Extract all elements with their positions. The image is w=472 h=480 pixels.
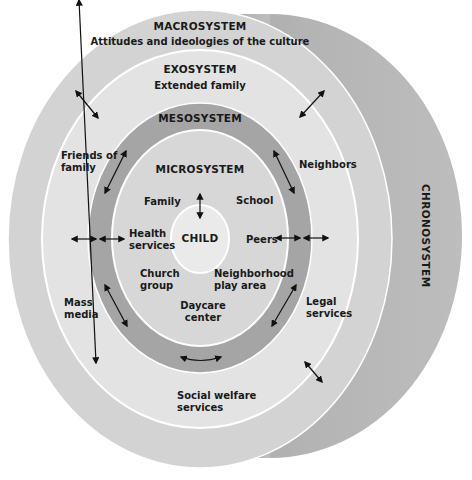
school-label: School bbox=[236, 195, 273, 207]
health-services-label: Healthservices bbox=[129, 228, 175, 252]
church-group-label: Churchgroup bbox=[140, 268, 180, 292]
neighborhood-play-area-label: Neighborhoodplay area bbox=[214, 268, 294, 292]
peers-label: Peers bbox=[246, 234, 278, 246]
legal-services-label: Legalservices bbox=[306, 296, 352, 320]
mass-media-label: Massmedia bbox=[64, 297, 99, 321]
neighbors-label: Neighbors bbox=[299, 159, 357, 171]
friends-of-family-label: Friends offamily bbox=[61, 150, 117, 174]
child-label: CHILD bbox=[182, 232, 219, 244]
daycare-center-label: Daycarecenter bbox=[180, 300, 226, 324]
exosystem-subtitle: Extended family bbox=[154, 80, 245, 92]
exosystem-title: EXOSYSTEM bbox=[163, 63, 236, 75]
chronosystem-title: CHRONOSYSTEM bbox=[420, 184, 432, 288]
mesosystem-title: MESOSYSTEM bbox=[158, 112, 242, 124]
macrosystem-title: MACROSYSTEM bbox=[153, 20, 246, 32]
macrosystem-subtitle: Attitudes and ideologies of the culture bbox=[91, 36, 310, 48]
microsystem-title: MICROSYSTEM bbox=[156, 163, 245, 175]
social-welfare-services-label: Social welfareservices bbox=[177, 390, 256, 414]
family-label: Family bbox=[144, 196, 181, 208]
